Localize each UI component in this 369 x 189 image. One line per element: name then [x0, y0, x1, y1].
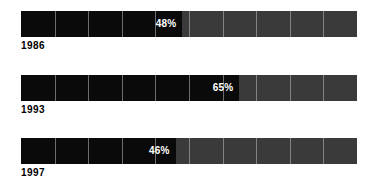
bar-track: 65%: [21, 75, 357, 101]
gridline: [223, 138, 224, 164]
bar-track: 48%: [21, 11, 357, 37]
bar-value-label: 48%: [156, 11, 183, 37]
bar-group-1993: 65% 1993: [21, 75, 357, 101]
bar-value-label: 65%: [213, 75, 240, 101]
gridline: [290, 11, 291, 37]
gridline: [223, 11, 224, 37]
gridline: [323, 138, 324, 164]
gridline: [256, 11, 257, 37]
bar-group-1986: 48% 1986: [21, 11, 357, 37]
bar-value-label: 46%: [149, 138, 176, 164]
bar-category-label: 1993: [21, 104, 45, 115]
bar-category-label: 1997: [21, 167, 45, 178]
gridline: [256, 75, 257, 101]
gridline: [189, 138, 190, 164]
gridline: [290, 138, 291, 164]
bar-track: 46%: [21, 138, 357, 164]
gridline: [256, 138, 257, 164]
gridline: [290, 75, 291, 101]
gridline: [323, 75, 324, 101]
bar-fill: [21, 75, 239, 101]
bar-chart: 48% 1986 65% 1993: [0, 0, 369, 189]
gridline: [189, 11, 190, 37]
gridline: [323, 11, 324, 37]
bar-group-1997: 46% 1997: [21, 138, 357, 164]
bar-category-label: 1986: [21, 40, 45, 51]
